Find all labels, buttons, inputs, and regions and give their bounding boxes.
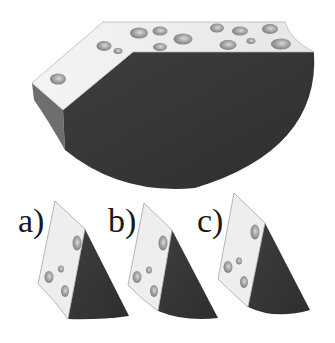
option-a-label: a) <box>18 204 44 238</box>
option-c-label: c) <box>197 204 223 238</box>
cheese-figure <box>0 0 335 343</box>
option-c-wedge[interactable] <box>218 193 310 314</box>
large-cheese <box>32 22 314 189</box>
option-b-label: b) <box>108 204 136 238</box>
